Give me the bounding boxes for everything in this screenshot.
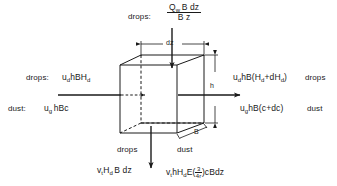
bottom-dust-label: dust (177, 146, 193, 154)
right-drops-label: drops (305, 74, 326, 82)
dimension-label-dz: dz (166, 39, 173, 46)
top-drops-label: drops: (128, 13, 151, 21)
diagram-canvas (0, 0, 337, 186)
dimension-label-h: h (210, 82, 214, 89)
cube-hidden-edges (120, 55, 204, 133)
flux-diagram-figure: drops: QwB dz B z drops: udhBHd dust: ug… (0, 0, 337, 186)
bottom-dust-flux-formula: vthHdE(34r)cBdz (166, 166, 224, 179)
dimension-label-b: B (194, 128, 199, 135)
left-dust-flux-formula: ughBc (44, 104, 69, 113)
bottom-drops-label: drops (117, 146, 138, 154)
left-drops-flux-formula: udhBHd (62, 73, 91, 82)
dimension-h (205, 55, 218, 123)
top-flux-formula: QwB dz B z (167, 4, 201, 23)
top-flux-denominator: B z (167, 13, 201, 22)
bottom-drops-flux-formula: vtHdB dz (97, 166, 132, 175)
right-dust-label: dust (307, 105, 323, 113)
top-flux-fraction: QwB dz B z (167, 3, 201, 22)
left-drops-label: drops: (26, 74, 49, 82)
right-drops-flux-formula: udhB(Hd+dHd) (233, 73, 287, 82)
cube-connecting-edges (120, 55, 204, 133)
bottom-dust-fraction: 34r (195, 166, 202, 179)
right-dust-flux-formula: ughB(c+dc) (240, 104, 283, 113)
left-dust-label: dust: (8, 105, 26, 113)
control-volume-cube (120, 55, 204, 133)
